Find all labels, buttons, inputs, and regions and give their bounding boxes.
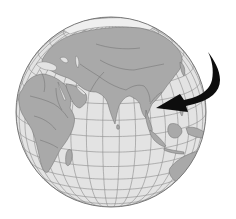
sri-lanka (117, 125, 120, 129)
globe-map (0, 0, 236, 219)
